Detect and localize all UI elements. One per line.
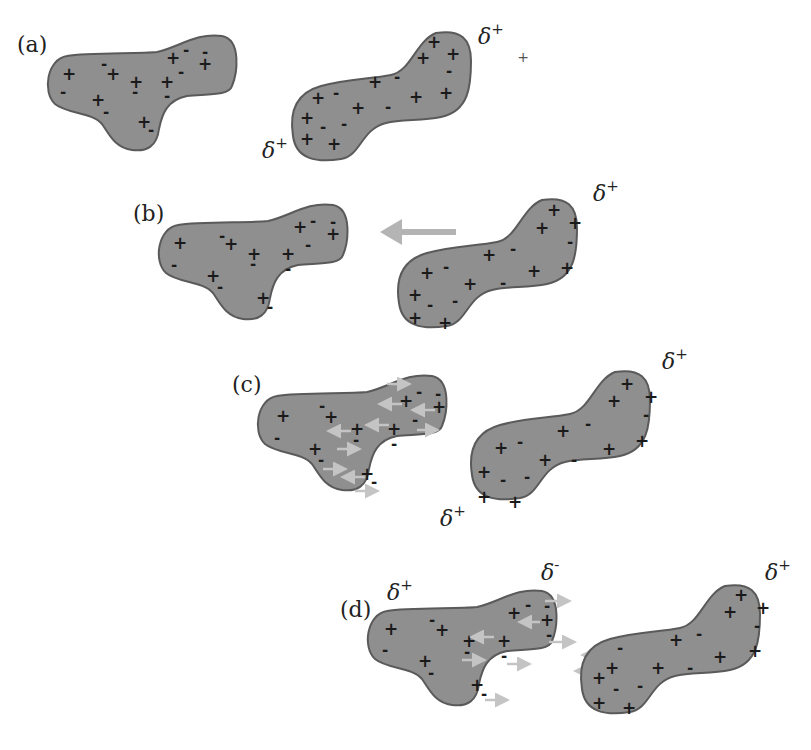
svg-text:-: - <box>510 240 516 258</box>
approach-arrow <box>380 219 456 245</box>
delta-plus-label: δ+ <box>478 20 504 49</box>
svg-text:+: + <box>408 285 422 305</box>
svg-text:-: - <box>267 298 273 316</box>
svg-text:+: + <box>607 391 621 411</box>
left-particle: +-+ +-+ -+- -+- -+- +- <box>48 35 237 150</box>
svg-text:-: - <box>585 415 591 433</box>
svg-text:+: + <box>556 421 570 441</box>
delta-plus-label: δ+ <box>662 345 688 374</box>
svg-text:-: - <box>443 258 449 276</box>
svg-text:-: - <box>464 643 470 661</box>
svg-text:-: - <box>501 647 507 665</box>
svg-text:-: - <box>305 236 311 254</box>
svg-text:-: - <box>416 383 422 401</box>
svg-text:-: - <box>341 115 347 133</box>
particle-shape <box>48 35 237 150</box>
svg-text:-: - <box>60 83 66 101</box>
svg-text:-: - <box>333 84 339 102</box>
svg-text:+: + <box>605 658 619 678</box>
svg-text:+: + <box>432 397 446 417</box>
svg-text:-: - <box>571 451 577 469</box>
delta-plus-label: δ+ <box>440 502 466 531</box>
svg-text:+: + <box>435 620 449 640</box>
svg-text:-: - <box>643 406 649 424</box>
svg-text:-: - <box>617 639 623 657</box>
svg-text:+: + <box>602 439 616 459</box>
svg-text:-: - <box>371 473 377 491</box>
svg-text:-: - <box>500 274 506 292</box>
svg-text:-: - <box>320 118 326 136</box>
stray-positive-charge: + <box>517 49 529 65</box>
svg-text:+: + <box>327 134 341 154</box>
svg-text:-: - <box>428 664 434 682</box>
svg-text:-: - <box>613 680 619 698</box>
svg-text:+: + <box>535 218 549 238</box>
svg-text:-: - <box>452 292 458 310</box>
delta-minus-label: δ- <box>541 556 559 585</box>
svg-text:+: + <box>748 641 762 661</box>
svg-text:+: + <box>173 233 187 253</box>
svg-text:-: - <box>250 255 256 273</box>
svg-text:-: - <box>525 596 531 614</box>
svg-text:+: + <box>420 263 434 283</box>
svg-text:+: + <box>622 698 636 718</box>
delta-plus-label: δ+ <box>262 134 288 163</box>
svg-text:+: + <box>669 630 683 650</box>
left-particle: +-+ +-+ -+- -+- -+- +- <box>258 375 447 491</box>
svg-text:+: + <box>547 200 561 220</box>
svg-text:+: + <box>293 217 307 237</box>
svg-text:-: - <box>353 431 359 449</box>
svg-text:+: + <box>527 261 541 281</box>
svg-text:+: + <box>300 129 314 149</box>
svg-text:+: + <box>368 72 382 92</box>
svg-text:+: + <box>198 54 212 74</box>
svg-text:-: - <box>171 256 177 274</box>
svg-text:-: - <box>217 278 223 296</box>
panel-label-c: (c) <box>232 372 262 397</box>
panel-c: (c) +-+ +-+ -+- -+- -+- +- <box>232 345 688 531</box>
delta-plus-label: δ+ <box>765 556 791 585</box>
svg-text:+: + <box>438 313 452 333</box>
svg-text:+: + <box>644 387 658 407</box>
svg-text:+: + <box>324 407 338 427</box>
svg-text:-: - <box>500 471 506 489</box>
svg-text:+: + <box>439 83 453 103</box>
delta-plus-label: δ+ <box>593 177 619 206</box>
svg-text:+: + <box>384 619 398 639</box>
svg-text:+: + <box>106 64 120 84</box>
svg-text:-: - <box>183 41 189 59</box>
svg-text:-: - <box>391 435 397 453</box>
svg-text:-: - <box>412 411 418 429</box>
svg-text:+: + <box>635 431 649 451</box>
panel-label-b: (b) <box>133 201 164 226</box>
svg-text:+: + <box>62 64 76 84</box>
svg-text:+: + <box>620 374 634 394</box>
svg-text:-: - <box>754 617 760 635</box>
left-particle: +-+ +-+ -+- -+- -+- +- <box>368 590 572 705</box>
svg-text:-: - <box>637 677 643 695</box>
svg-text:-: - <box>103 103 109 121</box>
svg-text:+: + <box>224 234 238 254</box>
svg-text:+: + <box>482 245 496 265</box>
right-particle: +++ -++ +-+ -+- +-- ++ <box>581 585 770 718</box>
svg-text:-: - <box>274 429 280 447</box>
delta-plus-label: δ+ <box>387 576 413 605</box>
svg-text:+: + <box>713 647 727 667</box>
svg-text:+: + <box>538 450 552 470</box>
svg-text:+: + <box>311 88 325 108</box>
svg-text:+: + <box>463 274 477 294</box>
svg-text:+: + <box>477 462 491 482</box>
svg-text:-: - <box>394 68 400 86</box>
panel-d: (d) δ+ δ- +-+ +-+ -+- -+- -+- +- <box>340 556 791 718</box>
svg-text:+: + <box>507 603 521 623</box>
svg-text:-: - <box>285 260 291 278</box>
panel-label-a: (a) <box>17 32 47 57</box>
svg-text:-: - <box>524 468 530 486</box>
svg-text:-: - <box>148 121 154 139</box>
svg-text:+: + <box>399 391 413 411</box>
svg-text:+: + <box>477 487 491 507</box>
svg-text:+: + <box>723 602 737 622</box>
svg-text:-: - <box>427 296 433 314</box>
svg-text:+: + <box>446 44 460 64</box>
svg-text:-: - <box>517 433 523 451</box>
